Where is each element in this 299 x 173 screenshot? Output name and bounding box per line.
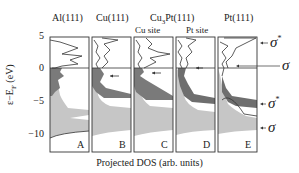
sigma-upper: σ <box>282 58 289 73</box>
panel-b <box>92 37 131 152</box>
panel-letter-c: C <box>161 140 168 150</box>
panel-letter-d: D <box>203 140 210 150</box>
sigma-star-upper: σ* <box>270 35 281 50</box>
panel-d <box>176 37 215 152</box>
sigma-star-lower: σ* <box>268 96 279 111</box>
panel-a <box>50 37 89 152</box>
panel-letter-e: E <box>245 140 251 150</box>
panel-letter-a: A <box>77 140 84 150</box>
sigma-lower: σ <box>268 120 275 135</box>
dos-panels <box>0 0 299 173</box>
panel-letter-b: B <box>119 140 126 150</box>
panel-c <box>134 37 173 152</box>
panel-e <box>218 37 257 152</box>
